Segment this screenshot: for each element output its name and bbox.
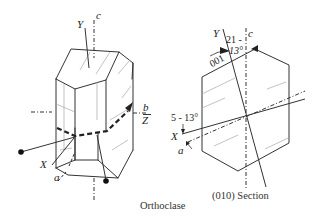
y-axis-label-left: Y <box>77 19 83 30</box>
orthoclase-crystal-drawing <box>0 0 322 218</box>
section-010-caption: (010) Section <box>212 191 269 202</box>
z-axis-label: Z <box>142 115 148 126</box>
angle-label-top-2: 13° <box>229 46 243 56</box>
a-axis-label-left: a <box>54 172 60 183</box>
y-axis-label-right: Y <box>213 28 219 39</box>
x-axis-label-left: X <box>40 159 47 170</box>
b-axis-label: b <box>143 102 149 113</box>
angle-label-top-1: 21 - <box>226 35 242 45</box>
x-axis-label-right: X <box>171 131 178 142</box>
angle-label-left: 5 - 13° <box>171 113 198 123</box>
c-axis-label-left: c <box>96 10 101 21</box>
a-axis-label-right: a <box>178 145 184 156</box>
c-axis-label-right: c <box>248 28 253 39</box>
orthoclase-caption: Orthoclase <box>140 201 185 212</box>
orthoclase-figure: Y c b Z X a Orthoclase Y c 21 - 13° 001 … <box>0 0 322 218</box>
